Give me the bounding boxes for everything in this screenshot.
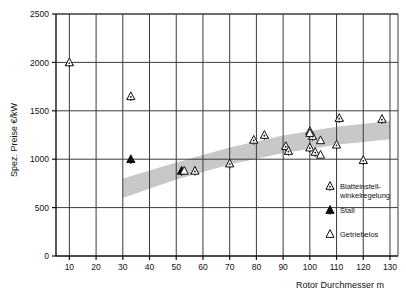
chart-figure: 102030405060708090100110120130 050010001… bbox=[0, 0, 406, 298]
x-tick-label: 130 bbox=[383, 262, 397, 272]
x-tick-label: 50 bbox=[172, 262, 182, 272]
x-tick-label: 100 bbox=[303, 262, 317, 272]
legend-item-label: Getriebelos bbox=[340, 230, 379, 239]
chart-svg: 102030405060708090100110120130 050010001… bbox=[0, 0, 406, 298]
y-tick-label: 2000 bbox=[30, 58, 49, 68]
y-tick-label: 500 bbox=[35, 203, 49, 213]
x-tick-label: 70 bbox=[225, 262, 235, 272]
marker-pitch-control bbox=[378, 115, 386, 124]
legend-item-label-cont: winkelregelung bbox=[339, 191, 390, 200]
x-tick-labels: 102030405060708090100110120130 bbox=[65, 262, 398, 272]
x-axis-title: Rotor Durchmesser m bbox=[296, 280, 384, 290]
x-tick-label: 110 bbox=[330, 262, 344, 272]
x-tick-label: 40 bbox=[145, 262, 155, 272]
marker-stall bbox=[326, 206, 334, 215]
marker-pitch-control bbox=[260, 131, 268, 140]
x-tick-label: 10 bbox=[65, 262, 75, 272]
y-tick-label: 1000 bbox=[30, 154, 49, 164]
x-tick-label: 30 bbox=[118, 262, 128, 272]
y-tick-label: 1500 bbox=[30, 106, 49, 116]
marker-pitch-control bbox=[326, 182, 334, 191]
y-axis-title: Spez. Preise €/kW bbox=[9, 102, 19, 177]
x-tick-label: 60 bbox=[198, 262, 208, 272]
y-tick-label: 2500 bbox=[30, 9, 49, 19]
x-tick-label: 120 bbox=[356, 262, 370, 272]
marker-gearless bbox=[326, 230, 334, 238]
x-tick-label: 90 bbox=[278, 262, 288, 272]
x-tick-label: 20 bbox=[91, 262, 101, 272]
x-tick-label: 80 bbox=[252, 262, 262, 272]
y-tick-labels: 05001000150020002500 bbox=[30, 9, 49, 261]
marker-pitch-control bbox=[359, 156, 367, 165]
legend-item-label: Stall bbox=[340, 206, 355, 215]
y-tick-label: 0 bbox=[44, 251, 49, 261]
chart-legend: Blatteinstell-winkelregelungStallGetrieb… bbox=[326, 182, 390, 239]
legend-item-label: Blatteinstell- bbox=[340, 182, 381, 191]
marker-pitch-control bbox=[127, 92, 135, 101]
